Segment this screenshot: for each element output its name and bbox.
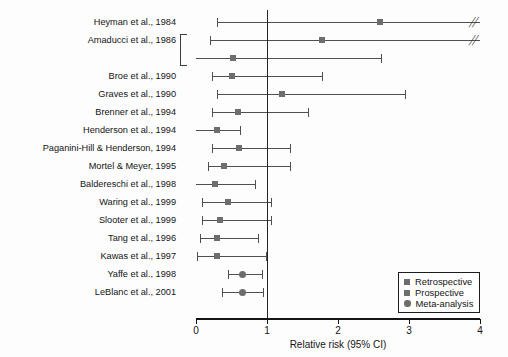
point-estimate-marker: [236, 145, 242, 151]
point-estimate-marker: [319, 37, 325, 43]
x-axis-tick-label: 3: [406, 325, 412, 336]
legend-label: Retrospective: [415, 276, 472, 287]
legend-circle-icon: [404, 300, 411, 307]
point-estimate-marker: [214, 127, 220, 133]
point-estimate-marker: [229, 73, 235, 79]
ci-upper-cap: [322, 72, 323, 81]
ci-upper-cap: [290, 162, 291, 171]
ci-lower-cap: [217, 90, 218, 99]
ci-lower-cap: [202, 198, 203, 207]
ci-lower-cap: [228, 270, 229, 279]
group-bracket: [180, 34, 187, 66]
ci-lower-cap: [200, 234, 201, 243]
point-estimate-marker: [279, 91, 285, 97]
study-label: Mortel & Meyer, 1995: [89, 161, 176, 171]
confidence-interval-line: [202, 202, 271, 203]
legend-item: Meta-analysis: [404, 298, 473, 309]
ci-upper-cap: [381, 54, 382, 63]
point-estimate-marker: [225, 199, 231, 205]
ci-upper-cap: [271, 216, 272, 225]
ci-upper-cap: [405, 90, 406, 99]
x-axis-tick-label: 0: [193, 325, 199, 336]
ci-lower-cap: [222, 288, 223, 297]
x-axis-tick-label: 2: [335, 325, 341, 336]
confidence-interval-line: [197, 256, 265, 257]
ci-upper-cap: [290, 144, 291, 153]
legend-square-icon: [404, 290, 410, 296]
study-label: Heyman et al., 1984: [94, 17, 176, 27]
x-axis-tick: [267, 319, 268, 324]
ci-lower-cap: [197, 252, 198, 261]
study-label: Kawas et al., 1997: [100, 251, 176, 261]
reference-line: [267, 10, 268, 318]
ci-upper-cap: [262, 270, 263, 279]
confidence-interval-line: [217, 94, 405, 95]
legend-item: Prospective: [404, 287, 473, 298]
point-estimate-marker: [212, 181, 218, 187]
x-axis-tick-label: 1: [264, 325, 270, 336]
point-estimate-marker: [377, 19, 383, 25]
x-axis-tick: [480, 319, 481, 324]
confidence-interval-line: [196, 58, 381, 59]
ci-upper-cap: [240, 126, 241, 135]
point-estimate-marker: [230, 55, 236, 61]
point-estimate-marker: [235, 109, 241, 115]
x-axis-tick: [196, 319, 197, 324]
ci-lower-cap: [202, 216, 203, 225]
x-axis-title: Relative risk (95% CI): [290, 339, 387, 350]
confidence-interval-line: [212, 112, 309, 113]
ci-lower-cap: [217, 18, 218, 27]
study-label: Amaducci et al., 1986: [88, 35, 176, 45]
ci-upper-cap: [263, 288, 264, 297]
point-estimate-marker: [217, 217, 223, 223]
legend-square-icon: [404, 279, 410, 285]
point-estimate-marker: [239, 289, 246, 296]
study-label: Paganini-Hill & Henderson, 1994: [43, 143, 176, 153]
study-label: Tang et al., 1996: [108, 233, 176, 243]
ci-lower-cap: [212, 144, 213, 153]
forest-plot: Heyman et al., 1984Amaducci et al., 1986…: [0, 0, 508, 357]
point-estimate-marker: [239, 271, 246, 278]
study-label: Waring et al., 1999: [99, 197, 176, 207]
ci-lower-cap: [212, 108, 213, 117]
legend-item: Retrospective: [404, 276, 473, 287]
x-axis-tick: [409, 319, 410, 324]
confidence-interval-line: [202, 220, 271, 221]
point-estimate-marker: [214, 235, 220, 241]
confidence-interval-line: [212, 148, 291, 149]
confidence-interval-line: [200, 238, 258, 239]
ci-upper-cap: [271, 198, 272, 207]
ci-lower-cap: [208, 162, 209, 171]
study-label: LeBlanc et al., 2001: [95, 287, 176, 297]
legend-label: Prospective: [415, 287, 464, 298]
ci-upper-cap: [258, 234, 259, 243]
confidence-interval-line: [217, 22, 480, 23]
x-axis-tick-label: 4: [477, 325, 483, 336]
ci-upper-cap: [255, 180, 256, 189]
chart-legend: RetrospectiveProspectiveMeta-analysis: [398, 272, 480, 313]
study-label: Slooter et al., 1999: [99, 215, 176, 225]
study-label: Graves et al., 1990: [98, 89, 176, 99]
point-estimate-marker: [214, 253, 220, 259]
ci-lower-cap: [210, 36, 211, 45]
study-label: Brenner et al., 1994: [95, 107, 176, 117]
study-label: Baldereschi et al., 1998: [80, 179, 176, 189]
study-label: Henderson et al., 1994: [83, 125, 176, 135]
study-label-column: Heyman et al., 1984Amaducci et al., 1986…: [0, 0, 176, 357]
ci-upper-cap: [308, 108, 309, 117]
confidence-interval-line: [196, 184, 255, 185]
x-axis-tick: [338, 319, 339, 324]
confidence-interval-line: [210, 40, 480, 41]
ci-lower-cap: [212, 72, 213, 81]
study-label: Broe et al., 1990: [109, 71, 176, 81]
point-estimate-marker: [221, 163, 227, 169]
study-label: Yaffe et al., 1998: [107, 269, 176, 279]
legend-label: Meta-analysis: [416, 298, 474, 309]
